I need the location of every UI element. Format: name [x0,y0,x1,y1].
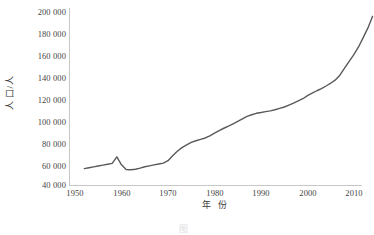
x-axis-title: 年 份 [69,200,362,211]
y-axis-title: 人 口/人 [5,57,15,129]
figure-caption: 图 [0,224,366,235]
population-line [84,16,372,169]
